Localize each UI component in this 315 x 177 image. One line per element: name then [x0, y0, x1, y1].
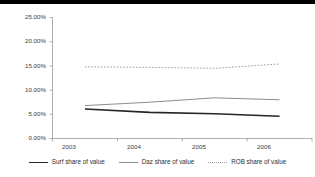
legend-line-swatch-rob — [208, 160, 227, 164]
series-line-rob — [85, 64, 280, 68]
y-tick-label-1: 5.00% — [28, 110, 46, 117]
series-line-daz — [85, 98, 280, 106]
legend-item-daz[interactable]: Daz share of value — [119, 158, 195, 165]
chart-legend: Surf share of value Daz share of value R… — [0, 158, 315, 177]
line-chart-svg: 0.00% 5.00% 10.00% 15.00% 20.00% 25.00% … — [0, 4, 315, 156]
legend-line-swatch-surf — [29, 160, 48, 164]
x-tick-marks — [53, 139, 313, 142]
x-tick-label-2006: 2006 — [257, 143, 271, 150]
chart-container: 0.00% 5.00% 10.00% 15.00% 20.00% 25.00% … — [0, 0, 315, 177]
legend-item-surf[interactable]: Surf share of value — [29, 158, 105, 165]
y-tick-marks — [50, 18, 53, 139]
legend-label-rob: ROB share of value — [231, 158, 286, 165]
legend-label-daz: Daz share of value — [142, 158, 195, 165]
plot-area: 0.00% 5.00% 10.00% 15.00% 20.00% 25.00% … — [0, 4, 315, 156]
y-tick-label-3: 15.00% — [25, 62, 46, 69]
y-tick-label-4: 20.00% — [25, 37, 46, 44]
y-tick-label-2: 10.00% — [25, 86, 46, 93]
x-tick-label-2004: 2004 — [127, 143, 141, 150]
series-layer — [85, 64, 280, 116]
legend-label-surf: Surf share of value — [52, 158, 105, 165]
y-tick-label-5: 25.00% — [25, 13, 46, 20]
y-tick-label-0: 0.00% — [28, 134, 46, 141]
series-line-surf — [85, 109, 280, 116]
x-tick-label-2003: 2003 — [62, 143, 76, 150]
legend-item-rob[interactable]: ROB share of value — [208, 158, 286, 165]
legend-line-swatch-daz — [119, 160, 138, 164]
x-tick-label-2005: 2005 — [192, 143, 206, 150]
